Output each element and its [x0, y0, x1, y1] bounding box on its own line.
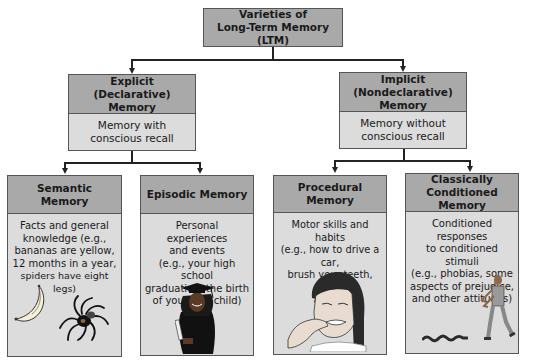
connector-explicit-horizontal [64, 162, 200, 164]
snake-icon [422, 333, 468, 343]
graduate-icon [175, 282, 219, 354]
semantic-title: Semantic Memory [12, 182, 117, 208]
implicit-header: Implicit (Nondeclarative) Memory [340, 73, 466, 112]
episodic-desc-line: and events [145, 245, 249, 258]
explicit-desc-line2: conscious recall [90, 132, 174, 145]
episodic-desc-line: Personal experiences [145, 220, 249, 245]
arrow-to-procedural [332, 167, 338, 173]
root-title-line1: Varieties of [204, 8, 342, 21]
connector-root-horizontal [131, 59, 403, 61]
procedural-desc-line: (e.g., how to drive a car, [278, 244, 382, 269]
implicit-title-line1: Implicit (Nondeclarative) [344, 73, 462, 99]
arrow-to-episodic [197, 168, 203, 174]
node-explicit-memory: Explicit (Declarative) Memory Memory wit… [68, 74, 196, 151]
explicit-body: Memory with conscious recall [69, 114, 195, 150]
implicit-body: Memory without conscious recall [340, 112, 466, 148]
classical-title-line1: Classically Conditioned [410, 173, 514, 199]
arrow-to-classical [467, 166, 473, 172]
procedural-title: Procedural Memory [278, 181, 382, 207]
root-node-ltm: Varieties of Long-Term Memory (LTM) [203, 8, 343, 47]
episodic-header: Episodic Memory [141, 176, 253, 214]
semantic-body: Facts and general knowledge (e.g., banan… [8, 214, 121, 295]
procedural-header: Procedural Memory [274, 176, 386, 213]
explicit-header: Explicit (Declarative) Memory [69, 75, 195, 114]
classical-desc-line: to conditioned stimuli [410, 243, 514, 268]
semantic-desc-line: knowledge (e.g., [12, 233, 117, 246]
implicit-desc-line2: conscious recall [360, 130, 446, 143]
semantic-desc-line: Facts and general [12, 220, 117, 233]
arrow-to-semantic [62, 168, 68, 174]
classical-title-line2: Memory [410, 199, 514, 212]
banana-icon [12, 284, 54, 324]
root-title-line2: Long-Term Memory (LTM) [204, 21, 342, 47]
explicit-title-line1: Explicit (Declarative) [73, 75, 191, 101]
procedural-desc-line: Motor skills and habits [278, 219, 382, 244]
implicit-title-line2: Memory [344, 99, 462, 112]
spider-icon [58, 292, 114, 342]
semantic-desc-line: bananas are yellow, [12, 245, 117, 258]
implicit-desc-line1: Memory without [360, 117, 446, 130]
node-implicit-memory: Implicit (Nondeclarative) Memory Memory … [339, 72, 467, 149]
girl-brushing-teeth-icon [282, 268, 382, 352]
episodic-desc-line: (e.g., your high school [145, 258, 249, 283]
semantic-header: Semantic Memory [8, 176, 121, 214]
explicit-desc-line1: Memory with [90, 119, 174, 132]
classical-desc-line: Conditioned responses [410, 218, 514, 243]
semantic-desc-line: 12 months in a year, [12, 258, 117, 271]
episodic-title: Episodic Memory [147, 188, 248, 201]
classical-header: Classically Conditioned Memory [406, 174, 518, 212]
connector-implicit-horizontal [334, 160, 470, 162]
explicit-title-line2: Memory [73, 101, 191, 114]
startled-man-icon [480, 274, 516, 344]
